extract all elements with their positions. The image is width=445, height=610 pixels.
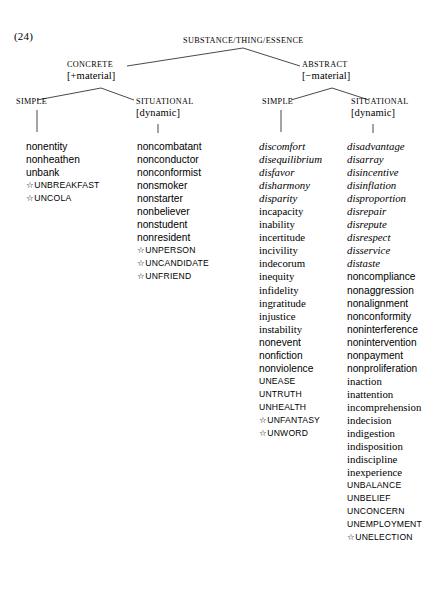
word-item: UNBALANCE bbox=[347, 479, 422, 492]
word-item: noncompliance bbox=[347, 270, 422, 283]
word-item: incomprehension bbox=[347, 401, 422, 414]
word-item: UNPERSON bbox=[137, 244, 209, 257]
word-item: UNBELIEF bbox=[347, 492, 422, 505]
word-item: incivility bbox=[259, 244, 322, 257]
tree-node-concrete-situational: SITUATIONAL [dynamic] bbox=[136, 97, 194, 119]
tree-node-abstract-simple: SIMPLE bbox=[262, 97, 293, 107]
word-item: disarray bbox=[347, 153, 422, 166]
word-item: nonconformity bbox=[347, 310, 422, 323]
word-item: UNCOLA bbox=[26, 192, 100, 205]
word-item: nonevent bbox=[259, 336, 322, 349]
word-item: disharmony bbox=[259, 179, 322, 192]
tree-node-abstract-situational-feature: [dynamic] bbox=[351, 107, 409, 119]
word-item: UNHEALTH bbox=[259, 401, 322, 414]
word-item: incertitude bbox=[259, 231, 322, 244]
word-item: nonsmoker bbox=[137, 179, 209, 192]
tree-node-concrete-feature: [+material] bbox=[67, 70, 115, 82]
word-item: disincentive bbox=[347, 166, 422, 179]
word-item: UNWORD bbox=[259, 427, 322, 440]
word-item: nonstarter bbox=[137, 192, 209, 205]
word-item: disfavor bbox=[259, 166, 322, 179]
word-item: nonalignment bbox=[347, 297, 422, 310]
word-item: UNEASE bbox=[259, 375, 322, 388]
word-item: UNFRIEND bbox=[137, 270, 209, 283]
word-item: inexperience bbox=[347, 466, 422, 479]
word-item: discomfort bbox=[259, 140, 322, 153]
word-item: disrepute bbox=[347, 218, 422, 231]
word-item: noninterference bbox=[347, 323, 422, 336]
word-item: nonpayment bbox=[347, 349, 422, 362]
edge-concrete-situational bbox=[101, 88, 134, 100]
tree-node-concrete-simple: SIMPLE bbox=[16, 97, 47, 107]
word-item: disrepair bbox=[347, 205, 422, 218]
tree-node-concrete-label: CONCRETE bbox=[67, 60, 115, 70]
word-column-concrete-situational: noncombatantnonconductornonconformistnon… bbox=[137, 140, 209, 284]
word-item: indecorum bbox=[259, 257, 322, 270]
word-item: infidelity bbox=[259, 284, 322, 297]
tree-node-abstract-feature: [−material] bbox=[302, 70, 350, 82]
tree-node-abstract-simple-label: SIMPLE bbox=[262, 97, 293, 107]
word-item: instability bbox=[259, 323, 322, 336]
edge-root-abstract bbox=[243, 48, 300, 66]
word-item: disadvantage bbox=[347, 140, 422, 153]
word-item: UNCANDIDATE bbox=[137, 257, 209, 270]
tree-node-abstract: ABSTRACT [−material] bbox=[302, 60, 350, 82]
word-item: disinflation bbox=[347, 179, 422, 192]
word-item: nonconformist bbox=[137, 166, 209, 179]
word-item: disproportion bbox=[347, 192, 422, 205]
word-item: disequilibrium bbox=[259, 153, 322, 166]
word-item: inequity bbox=[259, 270, 322, 283]
word-column-concrete-simple: nonentitynonheathenunbankUNBREAKFASTUNCO… bbox=[26, 140, 100, 205]
figure-page: (24) SUBSTANCE/THING/ESSENCE CONCRETE [+… bbox=[0, 0, 445, 610]
tree-node-root-label: SUBSTANCE/THING/ESSENCE bbox=[183, 36, 304, 46]
word-item: disrespect bbox=[347, 231, 422, 244]
word-item: incapacity bbox=[259, 205, 322, 218]
word-item: inaction bbox=[347, 375, 422, 388]
word-item: nonentity bbox=[26, 140, 100, 153]
word-item: UNCONCERN bbox=[347, 505, 422, 518]
word-item: unbank bbox=[26, 166, 100, 179]
word-item: nonintervention bbox=[347, 336, 422, 349]
tree-node-abstract-situational: SITUATIONAL [dynamic] bbox=[351, 97, 409, 119]
word-item: indecision bbox=[347, 414, 422, 427]
word-item: disservice bbox=[347, 244, 422, 257]
word-item: noncombatant bbox=[137, 140, 209, 153]
word-item: nonviolence bbox=[259, 362, 322, 375]
word-item: nonconductor bbox=[137, 153, 209, 166]
word-item: distaste bbox=[347, 257, 422, 270]
tree-node-root: SUBSTANCE/THING/ESSENCE bbox=[183, 36, 304, 46]
word-item: indiscipline bbox=[347, 453, 422, 466]
tree-node-abstract-situational-label: SITUATIONAL bbox=[351, 97, 409, 107]
word-item: UNELECTION bbox=[347, 531, 422, 544]
word-item: nonfiction bbox=[259, 349, 322, 362]
tree-node-concrete-situational-feature: [dynamic] bbox=[136, 107, 194, 119]
word-item: nonproliferation bbox=[347, 362, 422, 375]
word-item: ingratitude bbox=[259, 297, 322, 310]
tree-node-concrete-situational-label: SITUATIONAL bbox=[136, 97, 194, 107]
word-item: nonresident bbox=[137, 231, 209, 244]
word-item: indisposition bbox=[347, 440, 422, 453]
tree-node-concrete: CONCRETE [+material] bbox=[67, 60, 115, 82]
word-item: inability bbox=[259, 218, 322, 231]
tree-node-concrete-simple-label: SIMPLE bbox=[16, 97, 47, 107]
word-item: nonheathen bbox=[26, 153, 100, 166]
edge-abstract-simple bbox=[291, 88, 332, 100]
word-item: nonstudent bbox=[137, 218, 209, 231]
word-item: injustice bbox=[259, 310, 322, 323]
word-item: UNEMPLOYMENT bbox=[347, 518, 422, 531]
word-item: UNFANTASY bbox=[259, 414, 322, 427]
word-item: indigestion bbox=[347, 427, 422, 440]
word-column-abstract-simple: discomfortdisequilibriumdisfavordisharmo… bbox=[259, 140, 322, 440]
word-item: disparity bbox=[259, 192, 322, 205]
word-item: UNBREAKFAST bbox=[26, 179, 100, 192]
word-item: nonaggression bbox=[347, 284, 422, 297]
word-item: nonbeliever bbox=[137, 205, 209, 218]
tree-node-abstract-label: ABSTRACT bbox=[302, 60, 350, 70]
edge-root-concrete bbox=[127, 48, 243, 66]
word-column-abstract-situational: disadvantagedisarraydisincentivedisinfla… bbox=[347, 140, 422, 544]
word-item: UNTRUTH bbox=[259, 388, 322, 401]
word-item: inattention bbox=[347, 388, 422, 401]
